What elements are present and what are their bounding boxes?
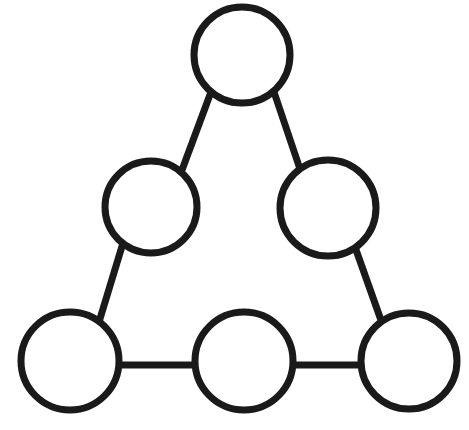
node-circle-bottom-right[interactable] <box>361 313 457 409</box>
node-mid-right[interactable] <box>280 160 376 256</box>
edge-apex-to-mid-right <box>274 92 301 172</box>
node-bottom-middle[interactable] <box>195 312 293 410</box>
edge-mid-left-to-bottom-left <box>99 243 123 322</box>
edge-apex-to-mid-left <box>182 92 211 170</box>
edge-mid-right-to-bottom-right <box>355 247 382 323</box>
node-apex[interactable] <box>194 7 290 103</box>
node-circle-bottom-left[interactable] <box>21 312 119 410</box>
diagram-canvas <box>0 0 469 430</box>
node-circle-apex[interactable] <box>194 7 290 103</box>
node-mid-left[interactable] <box>105 161 197 253</box>
circle-triangle-diagram <box>0 0 469 430</box>
node-bottom-right[interactable] <box>361 313 457 409</box>
node-circle-bottom-middle[interactable] <box>195 312 293 410</box>
node-circle-mid-left[interactable] <box>105 161 197 253</box>
node-circle-mid-right[interactable] <box>280 160 376 256</box>
node-bottom-left[interactable] <box>21 312 119 410</box>
nodes-group <box>21 7 457 410</box>
